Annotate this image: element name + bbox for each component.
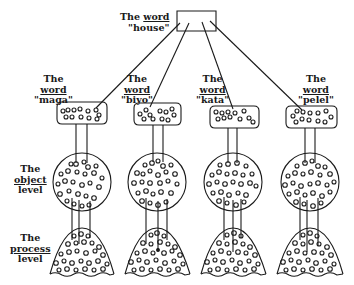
root-word: word bbox=[143, 11, 169, 22]
link-house-biyo bbox=[150, 23, 189, 107]
root-house: "house" bbox=[116, 23, 169, 34]
house-word-label: The word "house" bbox=[116, 12, 169, 33]
process-mound-4 bbox=[277, 228, 343, 276]
word-label-name: "pelel" bbox=[298, 95, 334, 106]
object-circle-1 bbox=[53, 153, 111, 211]
process-mound-2 bbox=[125, 228, 190, 276]
word-label-biyo: The word "biyo" bbox=[121, 74, 153, 106]
word-label-maga: The word "maga" bbox=[34, 74, 73, 106]
word-label-the: The bbox=[196, 74, 229, 85]
word-label-the: The bbox=[121, 74, 153, 85]
word-label-name: "kata" bbox=[196, 95, 229, 106]
word-label-name: "biyo" bbox=[121, 95, 153, 106]
word-label-name: "maga" bbox=[34, 95, 73, 106]
word-object-process-diagram bbox=[0, 0, 354, 285]
word-pod-biyo bbox=[134, 103, 181, 125]
object-circle-2 bbox=[128, 153, 186, 211]
word-pod-kata bbox=[210, 106, 259, 128]
process-level-suffix: level bbox=[10, 254, 51, 265]
word-label-pelel: The word "pelel" bbox=[298, 74, 334, 106]
process-level-label: The process level bbox=[10, 233, 51, 265]
word-label-the: The bbox=[34, 74, 73, 85]
process-level-the: The bbox=[10, 233, 51, 244]
object-level-the: The bbox=[14, 164, 47, 175]
process-mound-1 bbox=[50, 228, 114, 276]
word-label-kata: The word "kata" bbox=[196, 74, 229, 106]
object-level-label: The object level bbox=[14, 164, 47, 196]
object-circle-4 bbox=[281, 153, 339, 211]
root-the: The bbox=[120, 11, 140, 22]
word-pod-pelel bbox=[286, 106, 337, 128]
object-level-suffix: level bbox=[14, 185, 47, 196]
word-label-the: The bbox=[298, 74, 334, 85]
process-mound-3 bbox=[201, 228, 266, 276]
